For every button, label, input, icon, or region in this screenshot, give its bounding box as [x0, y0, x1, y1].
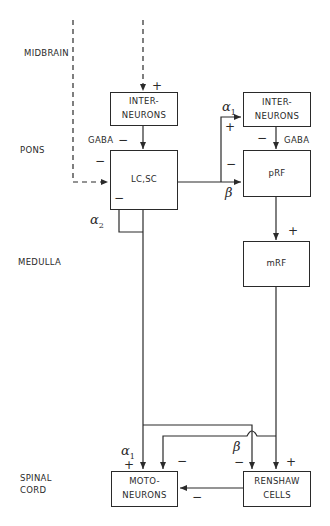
region-medulla: MEDULLA: [18, 258, 61, 267]
minus-sign: −: [234, 456, 244, 468]
interneurons-left-label-2: NEURONS: [122, 109, 166, 123]
motoneurons-box: MOTO- NEURONS: [111, 471, 178, 507]
beta-label-prf: β: [225, 186, 233, 199]
renshaw-box: RENSHAW CELLS: [243, 471, 311, 507]
mrf-label: mRF: [267, 257, 287, 271]
mrf-box: mRF: [243, 241, 310, 287]
gaba-label-left: GABA: [88, 136, 113, 145]
plus-sign: +: [288, 225, 298, 237]
beta-label-bottom: β: [233, 440, 241, 453]
renshaw-label-1: RENSHAW: [254, 475, 299, 489]
region-spinal-cord-1: SPINAL: [20, 474, 52, 483]
motoneurons-label-2: NEURONS: [122, 489, 166, 503]
minus-sign: −: [226, 158, 236, 170]
prf-label: pRF: [268, 167, 285, 181]
interneurons-right-label-2: NEURONS: [255, 110, 299, 124]
interneurons-left-label-1: INTER-: [129, 95, 159, 109]
alpha2-label: α2: [90, 213, 104, 230]
gaba-label-right: GABA: [284, 136, 309, 145]
minus-sign: −: [177, 455, 187, 467]
plus-sign: +: [286, 456, 296, 468]
minus-sign: −: [118, 134, 128, 146]
plus-sign: +: [152, 80, 162, 92]
region-spinal-cord-2: CORD: [20, 486, 46, 495]
minus-sign: −: [114, 192, 124, 204]
alpha1-label-top: α1: [222, 100, 236, 117]
minus-sign: −: [192, 491, 202, 503]
renshaw-label-2: CELLS: [263, 489, 291, 503]
minus-sign: −: [257, 132, 267, 144]
lc-sc-label: LC,SC: [131, 173, 157, 187]
region-pons: PONS: [20, 146, 45, 155]
interneurons-right-label-1: INTER-: [262, 96, 292, 110]
interneurons-left-box: INTER- NEURONS: [110, 92, 178, 126]
plus-sign: +: [124, 459, 134, 471]
region-midbrain: MIDBRAIN: [24, 49, 69, 58]
interneurons-right-box: INTER- NEURONS: [243, 92, 311, 127]
plus-sign: +: [225, 121, 235, 133]
prf-box: pRF: [243, 150, 311, 197]
minus-sign: −: [95, 155, 105, 167]
motoneurons-label-1: MOTO-: [129, 475, 160, 489]
